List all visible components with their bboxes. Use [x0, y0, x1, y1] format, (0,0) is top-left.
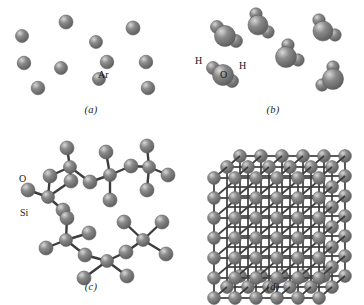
lattice-atom	[271, 212, 284, 225]
oxygen-atom	[215, 26, 236, 47]
oxygen-atom	[248, 15, 268, 35]
oxygen-atom	[313, 21, 333, 41]
oxygen-atom	[161, 168, 175, 182]
argon-atom	[31, 81, 45, 95]
lattice-atom	[208, 192, 221, 205]
lattice-atom	[250, 212, 263, 225]
lattice-atom	[250, 172, 263, 185]
lattice-atom	[208, 172, 221, 185]
label-silicon: Si	[20, 207, 28, 218]
silicon-atom	[42, 191, 55, 204]
lattice-atom	[292, 212, 305, 225]
argon-atom	[90, 36, 103, 49]
lattice-atom	[208, 232, 221, 245]
oxygen-atom	[21, 183, 35, 197]
label-hydrogen-left: H	[195, 55, 202, 66]
lattice-atom	[271, 292, 284, 305]
argon-atom	[139, 55, 153, 69]
oxygen-atom	[60, 141, 74, 155]
lattice-atom	[313, 192, 326, 205]
lattice-atom	[271, 192, 284, 205]
lattice-atom	[229, 172, 242, 185]
lattice-atom	[229, 232, 242, 245]
argon-atom	[100, 55, 114, 69]
oxygen-atom	[140, 183, 154, 197]
oxygen-atom	[99, 145, 113, 159]
lattice-atom	[271, 232, 284, 245]
oxygen-atom	[117, 215, 131, 229]
oxygen-atom	[155, 215, 169, 229]
lattice-atom	[313, 292, 326, 305]
panel-c-amorphous-silica: O Si (c)	[0, 130, 182, 305]
lattice-atom	[292, 252, 305, 265]
lattice-atom	[313, 232, 326, 245]
caption-panel-a: (a)	[0, 104, 182, 115]
silicon-atom	[137, 234, 150, 247]
caption-panel-b: (b)	[182, 104, 364, 115]
oxygen-atom	[276, 47, 297, 68]
panel-a-monatomic-gas: Ar (a)	[0, 0, 182, 130]
oxygen-atom	[64, 174, 78, 188]
lattice-atom	[313, 172, 326, 185]
silicon-atom	[101, 255, 114, 268]
oxygen-atom	[103, 193, 117, 207]
lattice-atom	[208, 292, 221, 305]
panel-d-crystalline-lattice: (d)	[182, 130, 364, 305]
argon-atom	[126, 21, 140, 35]
oxygen-atom	[78, 248, 92, 262]
label-oxygen-silica: O	[19, 173, 26, 184]
argon-atom	[141, 81, 155, 95]
oxygen-atom	[43, 169, 57, 183]
oxygen-atom	[140, 139, 154, 153]
oxygen-atom	[83, 175, 97, 189]
lattice-atom	[313, 252, 326, 265]
argon-atom	[17, 56, 31, 70]
lattice-atom	[292, 232, 305, 245]
lattice-atom	[208, 212, 221, 225]
caption-panel-d: (d)	[182, 281, 364, 292]
label-hydrogen-right: H	[239, 60, 246, 71]
oxygen-atom	[323, 69, 344, 90]
lattice-atom	[271, 172, 284, 185]
lattice-atom	[292, 292, 305, 305]
lattice-atom	[208, 252, 221, 265]
lattice-atom	[229, 292, 242, 305]
panel-b-water-molecules: H O H (b)	[182, 0, 364, 130]
silicon-atom	[64, 161, 77, 174]
argon-atom	[55, 62, 68, 75]
oxygen-atom	[60, 211, 74, 225]
lattice-atom	[229, 212, 242, 225]
lattice-atom	[292, 192, 305, 205]
lattice-atom	[271, 252, 284, 265]
lattice-atom	[250, 252, 263, 265]
oxygen-atom	[39, 241, 53, 255]
lattice-atom	[250, 292, 263, 305]
argon-atom	[59, 15, 73, 29]
lattice-atom	[229, 252, 242, 265]
oxygen-atom	[82, 226, 96, 240]
label-ar: Ar	[98, 69, 109, 80]
oxygen-atom	[159, 247, 173, 261]
lattice-atom	[250, 192, 263, 205]
lattice-atom	[313, 212, 326, 225]
silicon-atom	[104, 169, 117, 182]
label-oxygen: O	[220, 69, 227, 80]
silicon-atom	[143, 161, 156, 174]
lattice-atom	[229, 192, 242, 205]
caption-panel-c: (c)	[0, 281, 182, 292]
lattice-atom	[250, 232, 263, 245]
panel-d-stage	[182, 130, 364, 305]
silicon-atom	[60, 234, 73, 247]
oxygen-atom	[119, 245, 133, 259]
oxygen-atom	[124, 159, 138, 173]
lattice-atom	[292, 172, 305, 185]
argon-atom	[16, 30, 29, 43]
